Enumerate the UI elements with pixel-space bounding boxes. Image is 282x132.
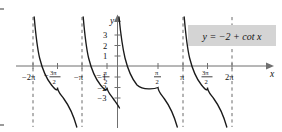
corner-mark-bottom-left (0, 124, 4, 126)
y-label-3: 3 (103, 30, 107, 40)
svg-text:2: 2 (53, 78, 56, 85)
plot-canvas: −2π − 3π 2 −π − π 2 π 2 π 3π 2 2π 3 2 1 … (0, 0, 282, 132)
equation-legend-text: y = −2 + cot x (202, 31, 262, 42)
svg-text:2: 2 (205, 78, 208, 85)
svg-text:π: π (155, 69, 159, 76)
x-label-pi-over-2: π 2 (154, 69, 161, 86)
curve-branch-3 (119, 17, 177, 127)
y-label-1: 1 (103, 51, 107, 61)
svg-text:−: − (44, 70, 49, 80)
svg-text:2: 2 (156, 78, 159, 85)
equation-legend: y = −2 + cot x (188, 25, 276, 46)
y-label-minus-2: −2 (97, 83, 106, 93)
x-label-minus-2pi: −2π (22, 72, 36, 82)
x-label-minus-3pi-over-2: − 3π 2 (44, 69, 61, 86)
cotangent-graph-figure: −2π − 3π 2 −π − π 2 π 2 π 3π 2 2π 3 2 1 … (0, 0, 282, 132)
svg-text:3π: 3π (50, 69, 57, 76)
y-label-2: 2 (103, 41, 107, 51)
x-label-pi: π (180, 72, 185, 82)
x-axis-label: x (269, 69, 275, 79)
x-label-minus-pi: −π (74, 72, 84, 82)
svg-text:π: π (180, 72, 185, 82)
y-axis-label: y (109, 16, 115, 26)
corner-mark-top-left (0, 8, 4, 10)
svg-text:2π: 2π (225, 72, 234, 82)
svg-text:3π: 3π (202, 69, 209, 76)
x-label-2pi: 2π (225, 72, 234, 82)
svg-text:−π: −π (74, 72, 84, 82)
y-label-minus-1: −1 (97, 72, 106, 82)
x-label-3pi-over-2: 3π 2 (202, 69, 213, 86)
y-label-minus-3: −3 (97, 93, 106, 103)
svg-text:−2π: −2π (22, 72, 36, 82)
